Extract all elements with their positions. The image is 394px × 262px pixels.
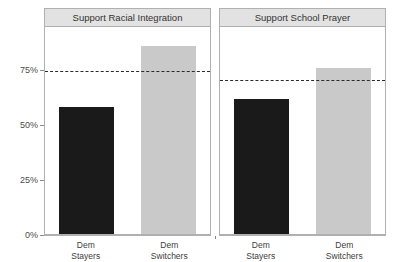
panel-title: Support School Prayer — [220, 9, 385, 27]
bar-group — [220, 27, 385, 235]
chart-panel: Support School Prayer — [219, 8, 386, 236]
x-axis-label-line: Dem — [303, 240, 387, 251]
y-axis-tick-label: 50% — [20, 120, 38, 130]
bar-slot — [128, 27, 211, 235]
bar[interactable] — [59, 107, 114, 235]
panel-title: Support Racial Integration — [45, 9, 210, 27]
x-label-group: DemStayersDemSwitchers — [44, 236, 211, 260]
panel-container: Support Racial IntegrationSupport School… — [44, 8, 386, 236]
bar-slot — [303, 27, 386, 235]
x-axis-label-line: Switchers — [128, 251, 212, 262]
x-axis-category-label: DemStayers — [219, 236, 303, 260]
reference-line — [45, 71, 210, 72]
x-axis-label-line: Dem — [128, 240, 212, 251]
x-axis-tick-mark — [215, 236, 216, 239]
bar-slot — [220, 27, 303, 235]
plot-area — [220, 27, 385, 235]
x-axis-line — [45, 234, 210, 235]
y-axis-tick-label: 75% — [20, 65, 38, 75]
chart-panel: Support Racial Integration — [44, 8, 211, 236]
x-axis-category-label: DemSwitchers — [128, 236, 212, 260]
bar[interactable] — [234, 99, 289, 235]
bar[interactable] — [316, 68, 371, 235]
reference-line — [220, 80, 385, 81]
bar-slot — [45, 27, 128, 235]
x-axis-line — [220, 234, 385, 235]
x-axis-category-label: DemStayers — [44, 236, 128, 260]
y-axis: 0%25%50%75% — [0, 0, 44, 260]
x-axis-category-label: DemSwitchers — [303, 236, 387, 260]
x-axis-label-line: Dem — [219, 240, 303, 251]
x-axis-label-line: Dem — [44, 240, 128, 251]
x-axis-label-line: Switchers — [303, 251, 387, 262]
plot-area — [45, 27, 210, 235]
x-axis-label-line: Stayers — [44, 251, 128, 262]
x-axis-labels: DemStayersDemSwitchersDemStayersDemSwitc… — [44, 236, 386, 260]
bar[interactable] — [141, 46, 196, 235]
x-label-group: DemStayersDemSwitchers — [219, 236, 386, 260]
y-axis-tick-label: 25% — [20, 175, 38, 185]
y-axis-tick-label: 0% — [25, 230, 38, 240]
x-axis-label-line: Stayers — [219, 251, 303, 262]
bar-group — [45, 27, 210, 235]
